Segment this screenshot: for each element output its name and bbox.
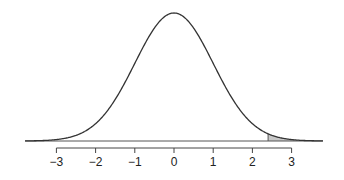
x-tick-label: 1 bbox=[210, 155, 217, 169]
x-tick-label: 3 bbox=[288, 155, 295, 169]
x-axis: −3−2−10123 bbox=[50, 148, 296, 169]
x-tick-label: 2 bbox=[249, 155, 256, 169]
x-tick-label: −2 bbox=[89, 155, 103, 169]
x-tick-label: −3 bbox=[50, 155, 64, 169]
density-curve bbox=[25, 13, 323, 141]
x-tick-label: 0 bbox=[171, 155, 178, 169]
normal-distribution-chart: −3−2−10123 bbox=[0, 0, 344, 180]
x-tick-label: −1 bbox=[128, 155, 142, 169]
